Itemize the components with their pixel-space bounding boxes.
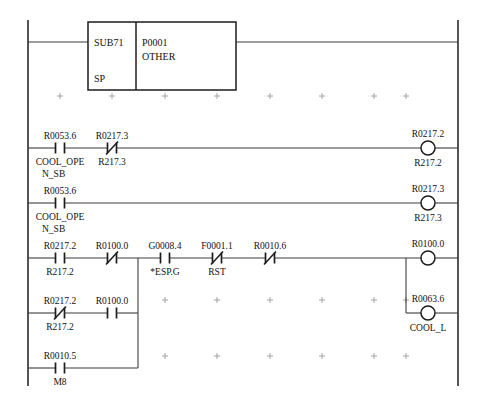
coil-r0217-2-bottom-label: R217.2 [414,158,442,168]
contact-r0217-3-top-label: R0217.3 [96,131,129,141]
contact-r0217-2-top-label: R0217.2 [44,241,77,251]
ladder-diagram: SUB71SPP0001OTHERR0053.6COOL_OPEN_SBR021… [0,0,485,399]
block-left-bottom-label: SP [94,73,106,84]
contact-r0053-6-bottom-label: COOL_OPE [36,157,85,167]
contact-r0053-6-second-bottom-label: COOL_OPE [36,212,85,222]
coil-r0217-2 [421,141,435,155]
contact-g0008-4-bottom-label: *ESP.G [150,267,179,277]
coil-r0217-3-top-label: R0217.3 [412,184,445,194]
contact-r0010-6-top-label: R0010.6 [254,241,287,251]
contact-r0100-0-top-label: R0100.0 [96,241,129,251]
contact-r0010-5-top-label: R0010.5 [44,351,77,361]
contact-f0001-1-top-label: F0001.1 [201,241,233,251]
block-right-line1: P0001 [142,37,168,48]
ladder-canvas: SUB71SPP0001OTHERR0053.6COOL_OPEN_SBR021… [0,0,485,399]
contact-r0053-6-top-label: R0053.6 [44,131,77,141]
contact-r0053-6-bottom-label-2: N_SB [42,169,65,179]
coil-r0217-3 [421,196,435,210]
coil-r0217-2-top-label: R0217.2 [412,129,445,139]
contact-r0053-6-second-top-label: R0053.6 [44,186,77,196]
contact-r0217-3-bottom-label: R217.3 [98,157,126,167]
contact-r0217-2-nc-top-label: R0217.2 [44,296,77,306]
contact-r0217-2-nc-bottom-label: R217.2 [46,322,74,332]
coil-r0063-6-bottom-label: COOL_L [410,323,447,333]
coil-r0217-3-bottom-label: R217.3 [414,213,442,223]
contact-r0100-0-no-top-label: R0100.0 [96,296,129,306]
coil-r0063-6 [421,306,435,320]
coil-r0100-0-top-label: R0100.0 [412,239,445,249]
contact-r0217-2-bottom-label: R217.2 [46,267,74,277]
contact-f0001-1-bottom-label: RST [208,267,226,277]
contact-r0010-5-bottom-label: M8 [53,377,66,387]
block-right-line2: OTHER [142,51,176,62]
coil-r0100-0 [421,251,435,265]
coil-r0063-6-top-label: R0063.6 [412,294,445,304]
block-left-top-label: SUB71 [94,37,123,48]
contact-g0008-4-top-label: G0008.4 [149,241,182,251]
contact-r0053-6-second-bottom-label-2: N_SB [42,224,65,234]
